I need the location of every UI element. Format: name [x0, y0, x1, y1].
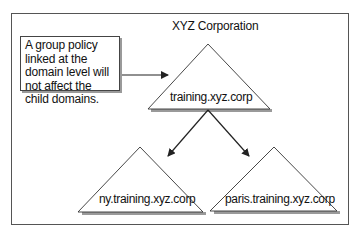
child-paris-label: paris.training.xyz.corp: [225, 192, 335, 206]
arrow-to-paris: [208, 110, 249, 156]
arrow-to-ny: [168, 110, 208, 156]
diagram-title: XYZ Corporation: [172, 19, 258, 33]
callout-box: A group policy linked at the domain leve…: [20, 36, 120, 91]
parent-domain-label: training.xyz.corp: [170, 90, 252, 104]
child-ny-label: ny.training.xyz.corp: [99, 192, 196, 206]
